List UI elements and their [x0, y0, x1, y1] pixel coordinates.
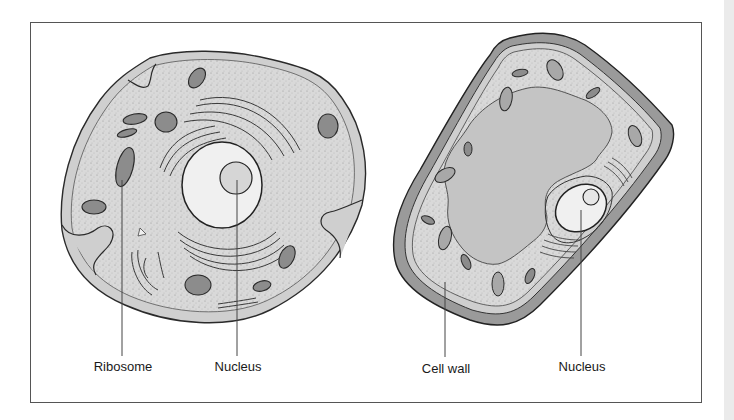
label-cell-wall: Cell wall: [422, 361, 470, 376]
label-plant-nucleus: Nucleus: [559, 359, 606, 374]
animal-cell: [61, 51, 365, 323]
plant-nucleolus: [583, 189, 599, 205]
label-ribosome: Ribosome: [94, 359, 153, 374]
cell-diagram: [0, 0, 734, 420]
animal-nucleolus: [220, 162, 252, 194]
plant-cell: [394, 33, 674, 325]
label-animal-nucleus: Nucleus: [215, 359, 262, 374]
